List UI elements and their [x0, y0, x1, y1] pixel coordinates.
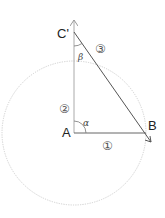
- segment-label-3: ③: [95, 42, 106, 56]
- diagram-canvas: C' A B α β ① ② ③: [0, 0, 165, 218]
- angle-arc-beta: [74, 44, 82, 47]
- segment-label-2: ②: [59, 102, 70, 116]
- point-label-b: B: [148, 118, 157, 133]
- point-label-a: A: [62, 125, 71, 140]
- angle-label-alpha: α: [83, 118, 89, 128]
- point-label-c-prime: C': [57, 26, 69, 41]
- angle-label-beta: β: [77, 52, 83, 62]
- segment-label-1: ①: [102, 139, 113, 153]
